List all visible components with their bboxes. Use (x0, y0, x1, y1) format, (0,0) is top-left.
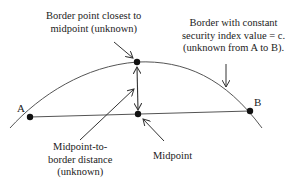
point-b-dot (247, 108, 253, 114)
distance-double-arrow (137, 67, 138, 110)
diagram-canvas: A B Border point closest to midpoint (un… (0, 0, 289, 183)
distance-label-line3: (unknown) (48, 166, 112, 179)
midpoint-dot (135, 111, 141, 117)
border-curve-label-line3: (unknown from A to B). (182, 42, 285, 55)
midpoint-label-line1: Midpoint (153, 150, 192, 163)
border-curve-label: Border with constant security index valu… (182, 17, 285, 55)
point-a-label: A (17, 102, 25, 115)
border-point-dot (134, 59, 140, 65)
midpoint-pointer-arrow (143, 119, 164, 141)
border-point-label-line1: Border point closest to (46, 10, 141, 23)
border-point-pointer-arrow (114, 42, 133, 58)
border-curve-label-line1: Border with constant (182, 17, 285, 30)
point-a-dot (27, 114, 33, 120)
border-curve-label-line2: security index value = c. (182, 30, 285, 43)
distance-label-line1: Midpoint-to- (48, 141, 112, 154)
point-b-label: B (254, 96, 261, 109)
border-point-label-line2: midpoint (unknown) (46, 23, 141, 36)
border-curve (10, 62, 262, 128)
distance-label: Midpoint-to- border distance (unknown) (48, 141, 112, 179)
distance-label-line2: border distance (48, 154, 112, 167)
midpoint-label: Midpoint (153, 150, 192, 163)
border-point-label: Border point closest to midpoint (unknow… (46, 10, 141, 35)
